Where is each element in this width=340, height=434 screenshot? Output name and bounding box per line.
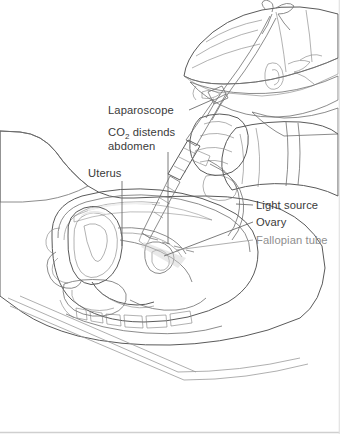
bladder-inner bbox=[72, 290, 114, 311]
label-ovary: Ovary bbox=[256, 216, 287, 228]
bowel-loop-2 bbox=[52, 258, 68, 283]
glove-cuff-line-1 bbox=[286, 122, 288, 186]
cap-fold-4 bbox=[276, 12, 286, 72]
mask-tie-2 bbox=[294, 72, 314, 84]
scope-cannula bbox=[142, 176, 180, 238]
glove-cuff-line-2 bbox=[298, 123, 300, 185]
illumination-cone bbox=[141, 242, 186, 268]
scope-band-3 bbox=[174, 166, 186, 172]
leader-fallopian-tube bbox=[176, 240, 253, 250]
drape-upper bbox=[0, 131, 88, 202]
mask-tie-3 bbox=[300, 55, 322, 60]
surgical-mask bbox=[190, 76, 338, 117]
cap-fold-5 bbox=[306, 10, 312, 62]
sleeve-fold-1 bbox=[240, 134, 244, 184]
label-co2-suffix: distends bbox=[130, 126, 176, 138]
label-uterus: Uterus bbox=[88, 167, 122, 179]
leader-lines bbox=[122, 99, 253, 256]
surgeon bbox=[184, 0, 338, 201]
label-laparoscope: Laparoscope bbox=[108, 104, 174, 116]
cervix-canal bbox=[92, 282, 154, 305]
table-line-1 bbox=[8, 298, 178, 372]
ear-inner bbox=[272, 70, 279, 85]
cap-fold-2 bbox=[196, 30, 258, 56]
cannula-band-2 bbox=[160, 198, 170, 204]
label-co2-line1: CO2 distends bbox=[108, 126, 176, 141]
label-co2-prefix: CO bbox=[108, 126, 125, 138]
rectum bbox=[130, 298, 206, 310]
illustration-canvas: Laparoscope CO2 distends abdomen Uterus … bbox=[0, 0, 340, 434]
ear bbox=[265, 63, 283, 89]
scope-band-2 bbox=[179, 157, 191, 163]
abdominal-wall-inner bbox=[58, 195, 250, 252]
table-line-5 bbox=[184, 364, 308, 380]
cap-tie bbox=[262, 0, 294, 34]
scope-handle bbox=[168, 140, 200, 180]
label-co2-line2: abdomen bbox=[108, 140, 155, 152]
cap-fold-3 bbox=[192, 44, 260, 68]
leader-light-source bbox=[236, 204, 253, 205]
uterine-cavity bbox=[84, 224, 107, 262]
label-fallopian-tube: Fallopian tube bbox=[256, 234, 328, 246]
surgeon-forearm bbox=[222, 122, 338, 196]
leader-laparoscope bbox=[189, 99, 214, 110]
table-line-2 bbox=[10, 306, 184, 380]
leader-ovary bbox=[164, 222, 253, 256]
uterus-outer-wall bbox=[68, 206, 122, 284]
uterus-myometrium bbox=[74, 213, 117, 278]
finger-line-3 bbox=[198, 147, 232, 152]
table-edge-lines bbox=[8, 296, 308, 380]
laparoscopy-figure: Laparoscope CO2 distends abdomen Uterus … bbox=[0, 0, 340, 434]
sleeve-fold-2 bbox=[256, 128, 260, 187]
sacrum-outline bbox=[66, 314, 222, 334]
label-light-source: Light source bbox=[256, 199, 318, 211]
vertebrae bbox=[76, 308, 192, 328]
